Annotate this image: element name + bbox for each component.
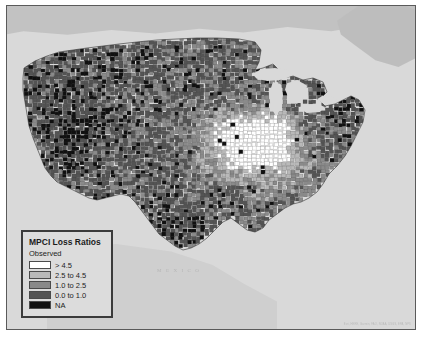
legend-swatch bbox=[29, 301, 51, 309]
legend-swatch bbox=[29, 261, 51, 269]
legend-swatch bbox=[29, 291, 51, 299]
legend-swatch bbox=[29, 281, 51, 289]
legend-title: MPCI Loss Ratios bbox=[29, 237, 105, 248]
legend-swatch bbox=[29, 271, 51, 279]
legend-row: 1.0 to 2.5 bbox=[29, 280, 105, 290]
map-attribution: Esri, HERE, Garmin, FAO, NOAA, USGS, EPA… bbox=[344, 323, 411, 326]
legend-row: NA bbox=[29, 300, 105, 310]
legend-row: > 4.5 bbox=[29, 260, 105, 270]
legend-label: 0.0 to 1.0 bbox=[55, 291, 86, 300]
legend-label: > 4.5 bbox=[55, 261, 72, 270]
legend-row: 0.0 to 1.0 bbox=[29, 290, 105, 300]
legend-label: 2.5 to 4.5 bbox=[55, 271, 86, 280]
mexico-country-label: M E X I C O bbox=[157, 268, 201, 273]
legend-row: 2.5 to 4.5 bbox=[29, 270, 105, 280]
legend-label: NA bbox=[55, 301, 65, 310]
map-legend: MPCI Loss Ratios Observed > 4.52.5 to 4.… bbox=[21, 230, 113, 318]
map-figure: M E X I C O Esri, HERE, Garmin, FAO, NOA… bbox=[0, 0, 422, 339]
legend-subtitle: Observed bbox=[29, 249, 105, 259]
map-frame: M E X I C O Esri, HERE, Garmin, FAO, NOA… bbox=[6, 5, 416, 330]
legend-label: 1.0 to 2.5 bbox=[55, 281, 86, 290]
legend-items: > 4.52.5 to 4.51.0 to 2.50.0 to 1.0NA bbox=[29, 260, 105, 310]
